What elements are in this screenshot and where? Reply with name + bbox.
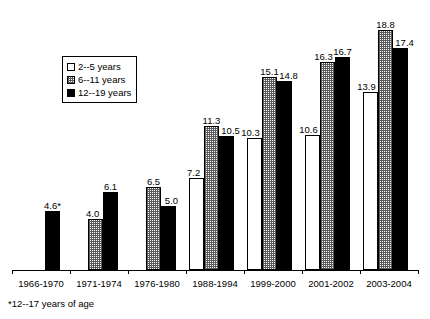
bar-slot: 16.7 (335, 8, 350, 270)
bar-value-label: 17.4 (395, 38, 414, 48)
bar-black[interactable]: 17.4 (393, 48, 408, 270)
bar-slot: 6.5 (146, 8, 161, 270)
bar-value-label: 6.1 (104, 182, 117, 192)
bar-gray[interactable]: 15.1 (262, 77, 277, 270)
bar-value-label: 4.6* (44, 201, 61, 211)
bar-value-label: 16.7 (333, 47, 352, 57)
bar-white[interactable]: 7.2 (189, 178, 204, 270)
bar-gray[interactable]: 18.8 (378, 30, 393, 270)
bar-slot: 7.2 (189, 8, 204, 270)
legend-item: 12--19 years (67, 86, 131, 99)
x-axis-tick-label: 1966-1970 (18, 278, 63, 290)
x-axis-tick-label: 1999-2000 (250, 278, 295, 290)
legend-swatch-gray-icon (67, 76, 75, 84)
bar-group: 10.616.316.7 (305, 8, 350, 270)
bar-slot: 17.4 (393, 8, 408, 270)
x-axis-tick (70, 270, 71, 274)
bar-group: 4.6* (45, 8, 60, 270)
bar-black[interactable]: 6.1 (103, 192, 118, 270)
bar-slot: 18.8 (378, 8, 393, 270)
bar-slot: 13.9 (363, 8, 378, 270)
x-axis-tick (302, 270, 303, 274)
bar-value-label: 7.2 (187, 168, 200, 178)
bar-value-label: 15.1 (260, 67, 279, 77)
bar-value-label: 13.9 (357, 82, 376, 92)
chart-legend: 2--5 years6--11 years12--19 years (62, 56, 137, 103)
bar-gray[interactable]: 6.5 (146, 187, 161, 270)
bar-value-label: 10.3 (241, 128, 260, 138)
x-axis-category-labels: 1966-19701971-19741976-19801988-19941999… (12, 278, 418, 292)
bar-value-label: 10.6 (299, 125, 318, 135)
bar-black[interactable]: 14.8 (277, 81, 292, 270)
legend-item-label: 12--19 years (78, 87, 131, 98)
bar-value-label: 18.8 (376, 20, 395, 30)
bar-black[interactable]: 4.6* (45, 211, 60, 270)
legend-item-label: 6--11 years (78, 74, 125, 85)
x-axis-line (12, 270, 418, 271)
x-axis-tick (128, 270, 129, 274)
chart-footnote: *12--17 years of age (8, 298, 94, 310)
bar-slot: 11.3 (204, 8, 219, 270)
legend-swatch-white-icon (67, 63, 75, 71)
x-axis-tick-label: 2001-2002 (308, 278, 353, 290)
x-axis-tick (360, 270, 361, 274)
legend-item-label: 2--5 years (78, 61, 121, 72)
bar-slot: 10.3 (247, 8, 262, 270)
bar-slot: 4.6* (45, 8, 60, 270)
bar-value-label: 16.3 (314, 52, 333, 62)
bar-value-label: 6.5 (147, 177, 160, 187)
bar-black[interactable]: 16.7 (335, 57, 350, 270)
bar-group: 10.315.114.8 (247, 8, 292, 270)
bar-group: 13.918.817.4 (363, 8, 408, 270)
bar-slot: 4.0 (88, 8, 103, 270)
bar-value-label: 4.0 (86, 209, 99, 219)
bar-gray[interactable]: 4.0 (88, 219, 103, 270)
bar-slot: 6.1 (103, 8, 118, 270)
x-axis-tick-label: 2003-2004 (366, 278, 411, 290)
bar-gray[interactable]: 11.3 (204, 126, 219, 270)
legend-swatch-black-icon (67, 89, 75, 97)
bar-slot: 15.1 (262, 8, 277, 270)
bar-chart: 4.6*4.06.16.55.07.211.310.510.315.114.81… (0, 0, 430, 319)
legend-item: 2--5 years (67, 60, 131, 73)
bar-group: 4.06.1 (88, 8, 118, 270)
x-axis-tick-label: 1971-1974 (76, 278, 121, 290)
bar-white[interactable]: 10.3 (247, 138, 262, 270)
bar-group: 6.55.0 (146, 8, 176, 270)
bar-black[interactable]: 5.0 (161, 206, 176, 270)
x-axis-tick (418, 270, 419, 274)
x-axis-tick-label: 1976-1980 (134, 278, 179, 290)
bar-gray[interactable]: 16.3 (320, 62, 335, 270)
bar-white[interactable]: 10.6 (305, 135, 320, 270)
bar-value-label: 5.0 (165, 196, 178, 206)
bar-group: 7.211.310.5 (189, 8, 234, 270)
x-axis-tick (244, 270, 245, 274)
bar-value-label: 10.5 (221, 126, 240, 136)
bar-slot: 5.0 (161, 8, 176, 270)
x-axis-tick-label: 1988-1994 (192, 278, 237, 290)
x-axis-tick (12, 270, 13, 274)
bar-slot: 10.5 (219, 8, 234, 270)
bar-value-label: 11.3 (203, 116, 221, 126)
bar-slot: 14.8 (277, 8, 292, 270)
plot-area: 4.6*4.06.16.55.07.211.310.510.315.114.81… (12, 8, 418, 270)
bar-black[interactable]: 10.5 (219, 136, 234, 270)
bar-slot: 10.6 (305, 8, 320, 270)
bar-value-label: 14.8 (279, 71, 298, 81)
bar-white[interactable]: 13.9 (363, 92, 378, 270)
x-axis-tick (186, 270, 187, 274)
legend-item: 6--11 years (67, 73, 131, 86)
